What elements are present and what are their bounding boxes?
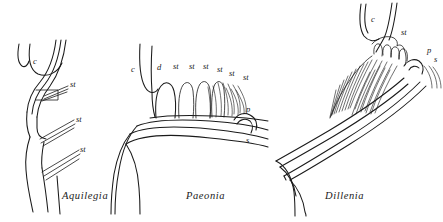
label-paeonia-st-4: st: [217, 64, 223, 74]
panel-aquilegia: Aquilegia c st st st: [18, 40, 108, 214]
aquilegia-axis-mid-1: [27, 112, 30, 137]
label-paeonia-p: p: [245, 104, 250, 114]
paeonia-stamen-stroke-9: [213, 86, 216, 117]
dillenia-calyx-line-1: [360, 4, 379, 41]
caption-dillenia: Dillenia: [324, 190, 364, 201]
paeonia-disc-lobe: [156, 83, 176, 118]
caption-aquilegia: Aquilegia: [61, 190, 108, 201]
aquilegia-pedicel-line-1: [42, 168, 48, 212]
dillenia-calyx-line-3: [376, 3, 392, 52]
aquilegia-stamen-2-line-a: [40, 120, 74, 139]
dillenia-calyx-line-4: [389, 3, 397, 40]
aquilegia-axis-mid-2: [37, 117, 46, 139]
aquilegia-calyx-hook: [18, 44, 29, 67]
paeonia-petal-hook: [234, 114, 257, 130]
paeonia-stamen-lobe-2: [196, 82, 211, 118]
aquilegia-axis-low-1: [26, 137, 33, 212]
aquilegia-axis-line-2: [32, 40, 61, 114]
dillenia-stamen-lobe-2: [383, 45, 392, 57]
paeonia-pedicel-line-3: [126, 144, 140, 214]
aquilegia-stamen-2-line-b: [41, 124, 75, 143]
dillenia-sepal-stroke-1: [424, 66, 432, 88]
aquilegia-stamen-2-line-c: [43, 128, 74, 146]
label-paeonia-st-1: st: [173, 61, 179, 71]
panel-paeonia: Paeonia c d st st st st st st p s: [111, 44, 268, 214]
dillenia-stamen-lobe-3: [391, 47, 400, 59]
dillenia-filament-6: [375, 66, 397, 113]
label-paeonia-c: c: [131, 64, 135, 74]
botanical-figure: Aquilegia c st st st: [0, 0, 443, 222]
paeonia-stamen-stroke-1: [218, 83, 221, 116]
label-dillenia-c: c: [371, 14, 375, 24]
label-aquilegia-st-2: st: [76, 114, 82, 124]
aquilegia-axis-line-3: [37, 40, 66, 117]
label-dillenia-s: s: [434, 54, 438, 64]
caption-paeonia: Paeonia: [185, 190, 225, 201]
label-paeonia-d: d: [157, 62, 162, 72]
aquilegia-stamen-3-line-a: [42, 150, 79, 172]
dillenia-calyx-line-2: [365, 4, 368, 33]
dillenia-petal-hook-inner: [409, 66, 419, 70]
paeonia-stamen-lobe-3: [212, 82, 225, 117]
aquilegia-stamen-1-line-a: [44, 86, 68, 96]
dillenia-stalk-base-1: [276, 161, 295, 216]
label-dillenia-p: p: [426, 45, 431, 55]
label-aquilegia-c: c: [33, 56, 37, 66]
aquilegia-stamen-1-line-b: [44, 89, 68, 99]
paeonia-receptacle-wall: [151, 46, 155, 117]
aquilegia-pedicel-line-2: [57, 176, 60, 214]
aquilegia-axis-low-2: [42, 142, 44, 168]
dillenia-filament-11: [336, 72, 352, 113]
paeonia-calyx-hook: [140, 44, 158, 93]
label-aquilegia-st-3: st: [80, 144, 86, 154]
dillenia-filament-15: [330, 90, 336, 117]
paeonia-stamen-stroke-3: [228, 84, 234, 114]
label-dillenia-st: st: [401, 27, 407, 37]
label-paeonia-st-5: st: [229, 68, 235, 78]
figure-linework: Aquilegia c st st st: [0, 0, 443, 222]
dillenia-stalk-line-2: [280, 84, 408, 167]
paeonia-stamen-lobe-1: [179, 83, 194, 118]
label-paeonia-st-3: st: [203, 61, 209, 71]
aquilegia-stamen-3-line-b: [44, 154, 80, 176]
aquilegia-stamen-3-line-c: [46, 159, 79, 180]
dillenia-stalk-line-3: [284, 82, 420, 176]
dillenia-stalk-base-4: [284, 176, 286, 180]
dillenia-stamen-lobe-1: [374, 44, 383, 56]
panel-dillenia: Dillenia c st p s: [276, 3, 441, 216]
label-aquilegia-st-1: st: [70, 79, 76, 89]
label-paeonia-st-2: st: [189, 61, 195, 71]
label-paeonia-st-6: st: [243, 72, 249, 82]
